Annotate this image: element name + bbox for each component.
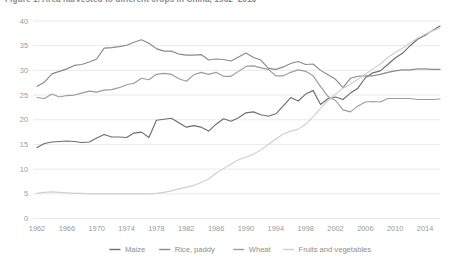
series-lines (37, 26, 440, 194)
x-tick-label: 1962 (29, 224, 45, 233)
y-tick-label: 25 (20, 91, 28, 100)
x-tick-label: 2006 (357, 224, 373, 233)
legend-label: Wheat (249, 245, 272, 254)
x-tick-label: 1986 (208, 224, 224, 233)
chart-legend: MaizeRice, paddyWheatFruits and vegetabl… (109, 245, 371, 254)
y-axis-tick-labels: 0510152025303540 (20, 17, 28, 224)
series-line (37, 26, 440, 147)
y-tick-label: 35 (20, 41, 28, 50)
y-tick-label: 5 (24, 189, 28, 198)
y-tick-label: 10 (20, 165, 28, 174)
legend-label: Rice, paddy (175, 245, 215, 254)
gridlines (33, 21, 440, 219)
x-tick-label: 1978 (148, 224, 164, 233)
legend-label: Fruits and vegetables (299, 245, 372, 254)
x-tick-label: 1966 (59, 224, 75, 233)
x-tick-label: 2014 (417, 224, 433, 233)
x-tick-label: 2002 (327, 224, 343, 233)
figure-container: Figure 1. Area harvested to different cr… (0, 0, 449, 260)
y-tick-label: 40 (20, 17, 28, 26)
y-tick-label: 20 (20, 115, 28, 124)
y-tick-label: 0 (24, 214, 28, 223)
legend-label: Maize (125, 245, 145, 254)
series-line (37, 66, 440, 112)
x-tick-label: 1994 (268, 224, 284, 233)
x-tick-label: 1974 (118, 224, 134, 233)
x-tick-label: 1982 (178, 224, 194, 233)
x-axis-tick-labels: 1962196619701974197819821986199019941998… (29, 224, 434, 233)
y-tick-label: 30 (20, 66, 28, 75)
x-tick-label: 2010 (387, 224, 403, 233)
line-chart: 0510152025303540 19621966197019741978198… (0, 0, 449, 260)
x-tick-label: 1998 (297, 224, 313, 233)
x-tick-label: 1990 (238, 224, 254, 233)
x-tick-label: 1970 (88, 224, 104, 233)
y-tick-label: 15 (20, 140, 28, 149)
series-line (37, 40, 440, 88)
